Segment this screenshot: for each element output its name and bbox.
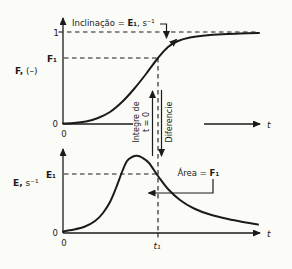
slope-pointer-arrow	[160, 24, 167, 38]
top-y-tick-label-f1: F₁	[47, 54, 57, 64]
top-origin-x-zero: 0	[61, 129, 66, 139]
top-x-axis-label: t	[267, 120, 271, 130]
e-curve	[63, 156, 258, 232]
area-note: Área = F₁	[178, 167, 220, 178]
top-y-tick-label-one: 1	[53, 28, 59, 38]
bottom-y-axis-label: E, s⁻¹	[13, 178, 39, 188]
figure-canvas: Inclinação = E₁, s⁻¹ 1 F₁ F, (–) 0 0 t I…	[0, 0, 292, 269]
integrate-label-line1: Integre de	[132, 101, 141, 142]
bottom-plot-e: Área = F₁ E₁ E, s⁻¹ 0 0 t₁ t	[13, 149, 271, 251]
bottom-y-tick-label-e1: E₁	[46, 170, 56, 180]
bottom-x-axis-label: t	[267, 229, 271, 239]
bottom-origin-x-zero: 0	[61, 238, 66, 248]
top-origin-y-zero: 0	[53, 119, 58, 129]
transform-annotations: Integre de t = 0 Diferencie	[132, 90, 174, 156]
bottom-x-tick-label-t1: t₁	[153, 241, 161, 251]
slope-note: Inclinação = E₁, s⁻¹	[72, 18, 155, 28]
integrate-label-line2: t = 0	[142, 112, 151, 132]
top-y-axis-label: F, (–)	[15, 66, 38, 76]
differentiate-label: Diferencie	[165, 102, 174, 143]
bottom-origin-y-zero: 0	[53, 228, 58, 238]
f-e-curve-diagram: Inclinação = E₁, s⁻¹ 1 F₁ F, (–) 0 0 t I…	[0, 0, 292, 269]
